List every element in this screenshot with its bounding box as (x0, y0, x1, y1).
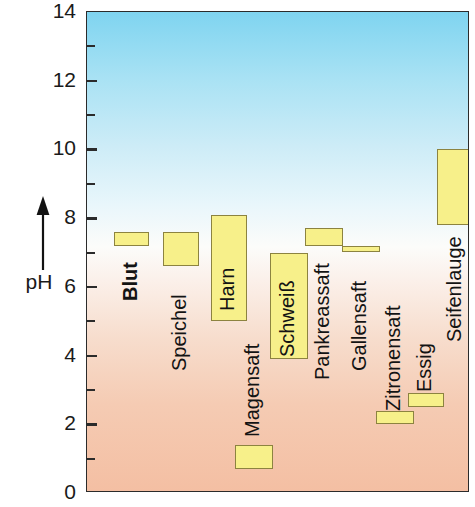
y-minor-tick-mark-11 (87, 114, 95, 116)
ph-bar-magensaft (235, 445, 273, 469)
y-minor-tick-mark-13 (87, 45, 95, 47)
y-tick-mark-6 (87, 286, 97, 289)
bar-label-seifenlauge: Seifenlauge (444, 236, 464, 342)
y-minor-tick-mark-1 (87, 458, 95, 460)
ph-bar-zitronensaft (376, 411, 414, 425)
bar-label-zitronensaft: Zitronensaft (383, 305, 403, 411)
bar-label-schweiss: Schweiß (277, 280, 297, 357)
y-tick-label-14: 14 (42, 0, 76, 21)
ph-bar-pankreassaft (305, 228, 343, 245)
y-tick-mark-4 (87, 355, 97, 358)
ph-bar-essig (408, 393, 444, 407)
plot-area: BlutSpeichelHarnMagensaftSchweißPankreas… (86, 11, 469, 492)
y-minor-tick-mark-5 (87, 320, 95, 322)
ph-bar-gallensaft (342, 246, 380, 253)
y-tick-mark-12 (87, 80, 97, 83)
bar-label-essig: Essig (414, 343, 434, 392)
ph-scale-chart: pH 14121086420 BlutSpeichelHarnMagensaft… (0, 0, 475, 507)
y-tick-label-10: 10 (42, 137, 76, 158)
y-minor-tick-mark-3 (87, 389, 95, 391)
bar-label-magensaft: Magensaft (242, 344, 262, 437)
bar-label-harn: Harn (217, 268, 237, 311)
bar-label-speichel: Speichel (169, 294, 189, 371)
bar-label-blut: Blut (120, 262, 140, 301)
ph-bar-speichel (163, 232, 199, 266)
ph-bar-blut (114, 232, 149, 246)
y-tick-label-12: 12 (42, 69, 76, 90)
y-tick-label-6: 6 (42, 275, 76, 296)
y-tick-mark-2 (87, 423, 97, 426)
y-tick-label-2: 2 (42, 412, 76, 433)
y-tick-label-0: 0 (42, 481, 76, 502)
y-tick-mark-10 (87, 148, 97, 151)
y-minor-tick-mark-9 (87, 183, 95, 185)
y-tick-mark-8 (87, 217, 97, 220)
y-minor-tick-mark-7 (87, 252, 95, 254)
bar-label-pankreassaft: Pankreassaft (312, 263, 332, 380)
y-tick-label-8: 8 (42, 206, 76, 227)
bar-label-gallensaft: Gallensaft (349, 281, 369, 371)
ph-bar-seifenlauge (437, 149, 469, 225)
y-tick-label-4: 4 (42, 344, 76, 365)
